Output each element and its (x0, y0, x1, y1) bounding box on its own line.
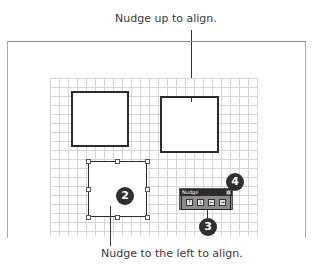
caption-nudge-up: Nudge up to align. (115, 12, 217, 25)
leader-line-bottom (110, 206, 111, 246)
arrow-down-icon: ↓ (198, 199, 202, 205)
nudge-toolbar: Nudge ↑ ↓ ← → (179, 188, 233, 210)
selection-handle-bm[interactable] (115, 215, 120, 220)
selection-handle-mr[interactable] (145, 187, 150, 192)
callout-badge-4: 4 (226, 173, 244, 191)
selection-handle-tm[interactable] (115, 159, 120, 164)
arrow-right-icon: → (220, 199, 224, 205)
selection-handle-br[interactable] (145, 215, 150, 220)
close-icon[interactable] (226, 190, 231, 195)
callout-badge-3: 3 (199, 218, 217, 236)
nudge-toolbar-titlebar[interactable]: Nudge (180, 189, 232, 196)
nudge-right-button[interactable]: → (219, 199, 226, 206)
selection-handle-tl[interactable] (86, 159, 91, 164)
nudge-up-button[interactable]: ↑ (186, 199, 193, 206)
selection-handle-bl[interactable] (86, 215, 91, 220)
leader-line-top-end (191, 96, 192, 102)
selection-handle-tr[interactable] (145, 159, 150, 164)
arrow-left-icon: ← (209, 199, 213, 205)
caption-nudge-left: Nudge to the left to align. (101, 247, 243, 260)
nudge-button-group: ↑ ↓ ← → (181, 196, 231, 210)
nudge-left-button[interactable]: ← (208, 199, 215, 206)
shape-square-top-left[interactable] (71, 91, 129, 147)
arrow-up-icon: ↑ (187, 199, 191, 205)
shape-square-top-right[interactable] (160, 96, 219, 153)
selection-handle-ml[interactable] (86, 187, 91, 192)
nudge-down-button[interactable]: ↓ (197, 199, 204, 206)
nudge-toolbar-title: Nudge (182, 189, 198, 195)
callout-badge-2: 2 (116, 187, 134, 205)
